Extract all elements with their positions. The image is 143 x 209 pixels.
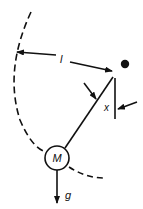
length-arrow-right <box>70 62 112 71</box>
mass-label: M <box>52 152 62 164</box>
length-label: l <box>60 53 63 65</box>
displacement-arrow-right <box>118 102 137 109</box>
pendulum-diagram: l x M g <box>0 0 143 209</box>
length-arrow-left <box>17 52 56 55</box>
displacement-arrow-left <box>84 83 96 99</box>
gravity-label: g <box>65 189 72 201</box>
swing-arc-dashed <box>14 12 46 152</box>
pivot-dot <box>121 60 129 68</box>
swing-arc-dashed-lower <box>69 167 104 178</box>
displacement-label: x <box>103 102 110 113</box>
